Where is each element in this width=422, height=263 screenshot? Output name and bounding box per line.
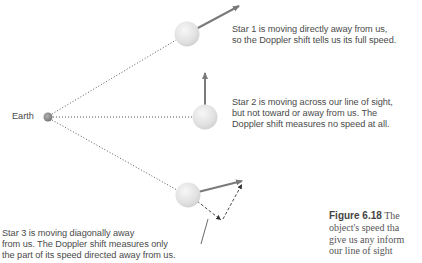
line-of-sight-star1 (52, 40, 176, 114)
caption-line: our line of sight (329, 245, 404, 257)
line-of-sight-group (52, 40, 193, 190)
earth-icon (44, 113, 53, 122)
star3-icon (176, 183, 201, 208)
star-1 (175, 6, 240, 47)
star-3 (176, 181, 243, 244)
star3-text-line: from us. The Doppler shift measures only (2, 239, 168, 250)
star1-text-line: so the Doppler shift tells us its full s… (232, 35, 396, 46)
figure-label: Figure 6.18 (329, 210, 382, 221)
line-of-sight-star3 (52, 120, 177, 190)
star2-icon (193, 105, 218, 130)
figure-caption: Figure 6.18 The object's speed tha give … (329, 210, 404, 257)
star3-transverse-component-arrow (223, 184, 242, 219)
caption-line: give us any inform (329, 234, 404, 246)
earth-label: Earth (12, 111, 34, 122)
star1-icon (175, 22, 200, 47)
star3-text-line: the part of its speed directed away from… (2, 250, 175, 261)
star-2 (193, 73, 218, 130)
star3-radial-component-arrow (197, 201, 221, 220)
star2-text-line: but not toward or away from us. The (232, 108, 377, 119)
caption-line: The (384, 210, 400, 221)
star2-text-line: Doppler shift measures no speed at all. (232, 119, 389, 130)
star1-text-line: Star 1 is moving directly away from us, (232, 24, 387, 35)
star3-velocity-arrow (198, 181, 242, 192)
star2-text-line: Star 2 is moving across our line of sigh… (232, 97, 393, 108)
caption-line: object's speed tha (329, 222, 404, 234)
star3-text-line: Star 3 is moving diagonally away (2, 228, 134, 239)
star3-leader-line (201, 219, 208, 244)
